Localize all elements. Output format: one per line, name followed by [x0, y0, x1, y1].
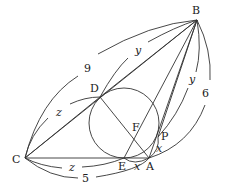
measure-cd: z	[55, 106, 62, 119]
label-f: F	[132, 121, 140, 134]
geometry-diagram: B C A D E F P 9 y z z 5 x x y 6	[0, 0, 226, 196]
arc-bc-9-a	[25, 76, 78, 158]
arc-bp-y-a	[196, 20, 199, 72]
measure-bc: 9	[84, 62, 91, 75]
measure-ce: z	[68, 161, 75, 174]
measure-ea: x	[134, 160, 141, 173]
measure-ab: 6	[202, 87, 209, 100]
measure-ap: x	[156, 142, 163, 155]
label-d: D	[90, 82, 99, 95]
label-a: A	[145, 160, 155, 173]
segment-da	[100, 97, 149, 158]
label-c: C	[12, 153, 20, 166]
arc-bd-y-b	[148, 20, 197, 42]
label-b: B	[192, 4, 200, 17]
arc-bd-y-a	[100, 58, 128, 97]
measure-ca: 5	[82, 172, 89, 185]
incircle	[89, 88, 159, 158]
label-e: E	[118, 160, 126, 173]
measure-bp: y	[188, 73, 196, 86]
arc-cd-z-a	[25, 118, 48, 158]
measure-bd: y	[134, 44, 142, 57]
arc-ce-z-a	[25, 158, 62, 168]
segment-db	[100, 20, 197, 97]
segment-cd	[25, 97, 100, 158]
